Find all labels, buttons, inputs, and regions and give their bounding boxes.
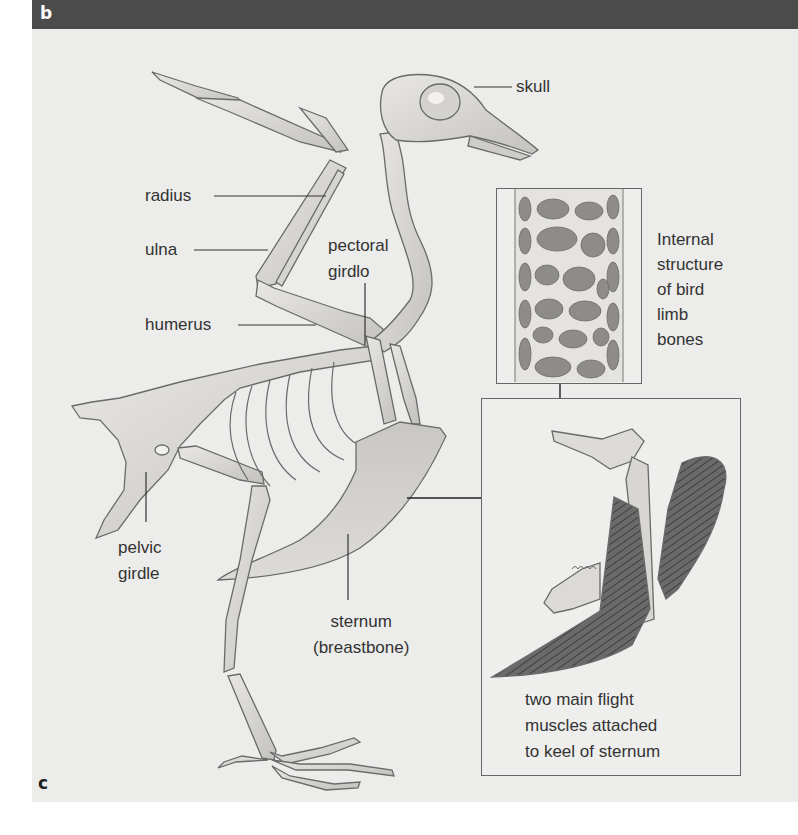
label-pelvic-girdle: pelvic girdle	[118, 535, 161, 587]
bone-structure-caption: Internal structure of bird limb bones	[657, 227, 723, 352]
pectoral-girdle-bones	[366, 336, 420, 424]
muscle-caption-line3: to keel of sternum	[525, 739, 660, 765]
label-pelvic-girdle-line1: pelvic	[118, 535, 161, 561]
muscle-caption-line1: two main flight	[525, 687, 660, 713]
label-pelvic-girdle-line2: girdle	[118, 561, 161, 587]
panel-letter-c: c	[38, 775, 48, 792]
label-humerus: humerus	[145, 312, 211, 338]
bone-caption-line4: limb	[657, 302, 723, 327]
label-sternum: sternum (breastbone)	[313, 609, 409, 661]
label-ulna: ulna	[145, 237, 177, 263]
pelvis-and-spine	[72, 346, 376, 538]
wing-bones	[152, 72, 384, 348]
bone-caption-line3: of bird	[657, 277, 723, 302]
trabecular-bone-illustration	[497, 189, 640, 382]
label-skull: skull	[516, 74, 550, 100]
flight-muscles-caption: two main flight muscles attached to keel…	[525, 687, 660, 765]
label-pectoral-girdle-line1: pectoral	[328, 233, 388, 259]
skull	[381, 75, 538, 160]
label-radius: radius	[145, 183, 191, 209]
bone-caption-line5: bones	[657, 327, 723, 352]
bone-caption-line2: structure	[657, 252, 723, 277]
flight-muscle-illustration	[482, 399, 739, 679]
label-sternum-line2: (breastbone)	[313, 635, 409, 661]
muscle-caption-line2: muscles attached	[525, 713, 660, 739]
bone-structure-inset	[496, 188, 642, 384]
label-pectoral-girdle: pectoral girdlo	[328, 233, 388, 285]
label-sternum-line1: sternum	[313, 609, 409, 635]
label-pectoral-girdle-line2: girdlo	[328, 259, 388, 285]
bone-caption-line1: Internal	[657, 227, 723, 252]
